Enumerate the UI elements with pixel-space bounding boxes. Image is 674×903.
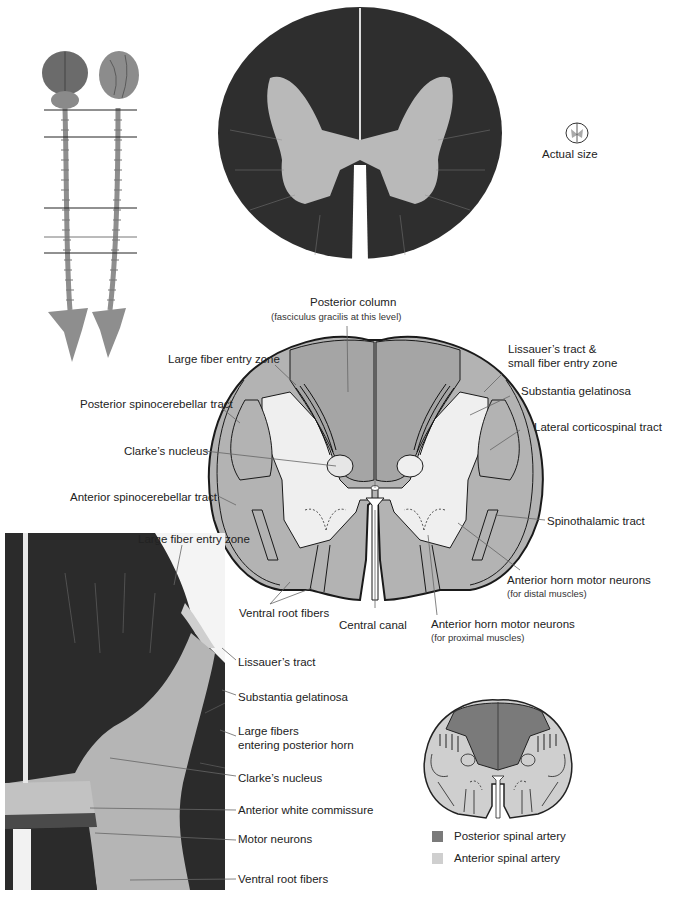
label-anterior-spinocerebellar-tract: Anterior spinocerebellar tract <box>70 491 217 504</box>
label-lissauers-tract-line2: small fiber entry zone <box>508 357 617 370</box>
mag-label-large-fibers-line1: Large fibers <box>238 725 299 738</box>
magnified-section-panel <box>5 533 225 890</box>
actual-size-label: Actual size <box>542 148 598 161</box>
mag-label-large-fiber-entry-zone: Large fiber entry zone <box>138 533 250 546</box>
spinal-cord-specimens-illustration <box>30 40 150 370</box>
posterior-artery-swatch <box>432 831 443 842</box>
stained-cross-section-illustration <box>210 0 510 270</box>
blood-supply-panel <box>418 694 578 834</box>
label-posterior-spinocerebellar-tract: Posterior spinocerebellar tract <box>80 398 233 411</box>
label-ventral-root-fibers: Ventral root fibers <box>239 607 329 620</box>
label-anterior-horn-proximal: Anterior horn motor neurons <box>431 618 575 631</box>
label-posterior-column-sub: (fasciculus gracilis at this level) <box>271 311 401 323</box>
mag-label-substantia-gelatinosa: Substantia gelatinosa <box>238 691 348 704</box>
mag-label-lissauers-tract: Lissauer’s tract <box>238 656 316 669</box>
stained-cross-section-panel <box>210 0 510 270</box>
legend-anterior-spinal-artery: Anterior spinal artery <box>454 852 560 865</box>
mag-label-ventral-root-fibers: Ventral root fibers <box>238 873 328 886</box>
legend-posterior-spinal-artery: Posterior spinal artery <box>454 830 566 843</box>
label-central-canal: Central canal <box>339 619 407 632</box>
label-substantia-gelatinosa: Substantia gelatinosa <box>521 385 631 398</box>
label-lateral-corticospinal-tract: Lateral corticospinal tract <box>534 421 662 434</box>
label-spinothalamic-tract: Spinothalamic tract <box>547 515 645 528</box>
mag-label-anterior-white-commissure: Anterior white commissure <box>238 804 373 817</box>
mag-label-clarkes-nucleus: Clarke’s nucleus <box>238 772 322 785</box>
blood-supply-diagram <box>418 694 578 834</box>
mag-label-large-fibers-line2: entering posterior horn <box>238 739 354 752</box>
spinal-cord-overview-panel <box>30 40 150 370</box>
anterior-artery-swatch <box>432 853 443 864</box>
label-anterior-horn-distal-sub: (for distal muscles) <box>507 588 587 600</box>
blood-supply-legend: Posterior spinal artery Anterior spinal … <box>432 831 632 881</box>
label-lissauers-tract-line1: Lissauer’s tract & <box>508 343 596 356</box>
label-large-fiber-entry-zone: Large fiber entry zone <box>168 353 280 366</box>
label-clarkes-nucleus: Clarke’s nucleus <box>124 445 208 458</box>
label-posterior-column: Posterior column <box>310 296 396 309</box>
mag-label-motor-neurons: Motor neurons <box>238 833 312 846</box>
actual-size-icon <box>542 120 612 146</box>
magnified-section-illustration <box>5 533 225 890</box>
label-anterior-horn-distal: Anterior horn motor neurons <box>507 574 651 587</box>
label-anterior-horn-proximal-sub: (for proximal muscles) <box>431 632 524 644</box>
actual-size-indicator: Actual size <box>542 120 612 170</box>
